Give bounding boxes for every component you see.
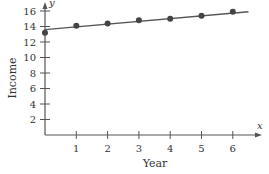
plot-series — [42, 9, 248, 36]
data-point — [167, 16, 173, 22]
y-tick-label: 4 — [30, 99, 36, 110]
y-tick-label: 12 — [23, 37, 36, 48]
y-tick-label: 8 — [30, 68, 36, 79]
data-point — [73, 23, 79, 29]
y-axis-title: Income — [6, 57, 19, 98]
x-tick-label: 3 — [136, 143, 142, 154]
y-tick-label: 2 — [30, 114, 36, 125]
data-point — [42, 30, 48, 36]
data-point — [230, 9, 236, 15]
y-axis-ticks: 246810121416 — [23, 6, 50, 126]
y-axis-arrow-icon — [43, 2, 48, 9]
x-axis-arrow-icon — [255, 133, 262, 138]
y-tick-label: 14 — [23, 21, 36, 32]
data-point — [199, 13, 205, 19]
x-tick-label: 2 — [104, 143, 110, 154]
y-tick-label: 16 — [23, 6, 36, 17]
y-axis-variable: y — [48, 0, 55, 8]
y-tick-label: 10 — [23, 52, 36, 63]
data-point — [105, 20, 111, 26]
x-tick-label: 5 — [198, 143, 204, 154]
x-tick-label: 4 — [167, 143, 173, 154]
data-point — [136, 17, 142, 23]
y-tick-label: 6 — [30, 83, 36, 94]
x-axis-title: Year — [142, 157, 168, 170]
x-tick-label: 6 — [230, 143, 236, 154]
x-tick-label: 1 — [73, 143, 79, 154]
income-vs-year-chart: 246810121416 123456 x y Year Income — [0, 0, 269, 174]
x-axis-variable: x — [257, 120, 263, 131]
